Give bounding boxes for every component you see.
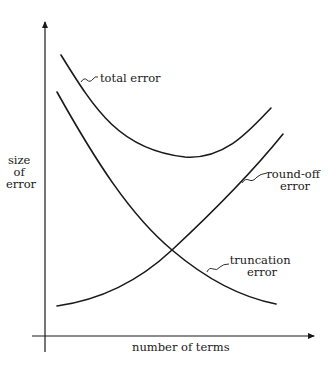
total-error-label: total error	[100, 71, 161, 85]
total-error-leader	[81, 77, 98, 82]
x-axis-label: number of terms	[132, 340, 230, 354]
round-off-error-curve	[57, 134, 283, 306]
total-error-curve	[61, 55, 271, 157]
y-axis-label: size of error	[6, 153, 37, 191]
error-vs-terms-chart: size of error number of terms total erro…	[0, 0, 336, 367]
truncation-error-leader	[207, 264, 229, 272]
truncation-error-label: truncation error	[230, 253, 295, 279]
truncation-error-curve	[57, 92, 276, 304]
round-off-error-leader	[242, 173, 267, 183]
round-off-error-label: round-off error	[266, 167, 323, 193]
